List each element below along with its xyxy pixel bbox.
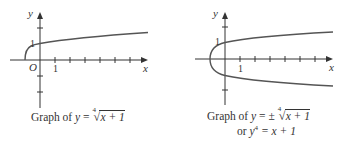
radicand: x + 1 [285,109,310,122]
right-y-tick-label: 1 [215,36,220,47]
caption-prefix: Graph of [31,111,75,123]
left-origin-label: O [29,61,37,73]
radicand: x + 1 [99,110,124,123]
left-y-tick-label: 1 [30,38,35,49]
left-y-arrow-icon [37,12,43,19]
caption-or: or [237,125,249,137]
caption-prefix: Graph of [207,110,251,122]
radicand-text: x + 1 [100,111,124,123]
left-graph: y x O 1 1 [10,7,148,108]
right-x-axis-label: x [328,61,334,73]
right-y-arrow-icon [222,12,228,19]
right-x-tick-label: 1 [238,63,243,74]
left-caption: Graph of y = 4√x + 1 [31,111,125,123]
caption2-rest: = x + 1 [258,125,296,137]
radical-sign-icon: √ [93,110,100,125]
left-x-tick-label: 1 [53,63,58,74]
right-caption-line2: or y4 = x + 1 [237,124,296,137]
left-y-axis-label: y [27,7,33,19]
caption-equals-pm: = ± [256,110,277,122]
radical-sign-icon: √ [279,109,286,124]
radicand-text: x + 1 [286,110,310,122]
left-x-axis-label: x [142,62,148,74]
right-graph: y x 1 1 [195,7,334,105]
left-curve [25,33,148,61]
fourth-root-radical: 4√x + 1 [278,110,310,122]
right-caption-line1: Graph of y = ± 4√x + 1 [207,110,310,122]
fourth-root-radical: 4√x + 1 [92,111,124,123]
right-y-axis-label: y [212,7,218,19]
caption-equals: = [80,111,92,123]
